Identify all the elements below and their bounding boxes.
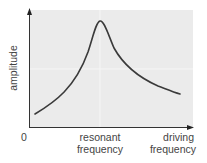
x-axis-label-line1: driving [163, 131, 194, 143]
origin-label: 0 [21, 131, 27, 143]
resonance-chart: amplitude 0 resonant frequency driving f… [0, 0, 207, 163]
resonant-label-line1: resonant [80, 131, 121, 143]
resonant-label-line2: frequency [77, 143, 124, 155]
x-axis-label-line2: frequency [150, 143, 197, 155]
y-axis-label: amplitude [7, 45, 19, 91]
